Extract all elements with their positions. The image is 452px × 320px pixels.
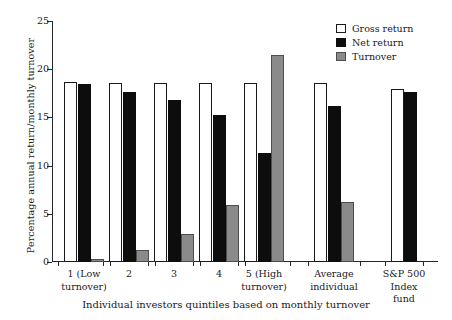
x-tick-mark [290,262,291,266]
y-tick-label: 25 [37,15,49,26]
bar [226,205,239,262]
chart-legend: Gross returnNet returnTurnover [336,22,413,64]
x-tick-mark [193,262,194,266]
bar [391,89,404,262]
x-tick-mark [110,262,111,266]
legend-label: Net return [352,37,404,48]
y-tick-label: 0 [43,256,49,267]
legend-label: Turnover [352,51,396,62]
bar [314,83,327,262]
x-tick-mark [245,262,246,266]
bar [168,100,181,262]
x-category-label: Average individual [294,268,374,293]
x-axis-title: Individual investors quintiles based on … [0,299,452,310]
bar [64,82,77,262]
x-tick-mark [103,262,104,266]
x-tick-mark [58,262,59,266]
x-category-label: 5 (High turnover) [224,268,304,293]
legend-item: Turnover [336,50,413,63]
x-tick-mark [148,262,149,266]
y-tick-label: 20 [37,63,49,74]
x-tick-mark [238,262,239,266]
bar [341,202,354,262]
bar [199,83,212,262]
bar [181,234,194,262]
legend-swatch-gross [336,24,346,33]
bar [213,115,226,262]
y-tick-label: 15 [37,111,49,122]
x-tick-mark [360,262,361,266]
x-tick-mark [423,262,424,266]
y-tick-label: 10 [37,160,49,171]
legend-label: Gross return [352,23,413,34]
legend-swatch-turnover [336,52,346,61]
legend-swatch-net [336,38,346,47]
bar [123,92,136,262]
x-tick-mark [308,262,309,266]
bar [258,153,271,262]
bar [136,250,149,262]
bar [154,83,167,262]
y-axis-line [52,21,53,262]
bar [78,84,91,262]
legend-item: Net return [336,36,413,49]
x-tick-mark [155,262,156,266]
bar [244,83,257,262]
bar [404,92,417,262]
y-axis-title: Percentage annual return/monthly turnove… [25,16,36,276]
legend-item: Gross return [336,22,413,35]
x-tick-mark [200,262,201,266]
bar [328,106,341,262]
bar [109,83,122,262]
bar-chart-figure: Percentage annual return/monthly turnove… [0,0,452,320]
x-tick-mark [385,262,386,266]
bar [271,55,284,262]
y-tick-label: 5 [43,208,49,219]
